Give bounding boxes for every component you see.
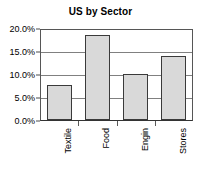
y-axis-tick-label: 20.0% <box>9 25 35 34</box>
bar-food[interactable] <box>85 35 110 120</box>
y-axis-tick-label: 0.0% <box>14 117 35 126</box>
bar-engin[interactable] <box>123 74 148 120</box>
x-axis-tick-label: Engin <box>140 128 149 151</box>
x-axis: TextileFoodEnginStores <box>40 126 193 171</box>
x-label-slot: Food <box>78 126 116 171</box>
bar-slot <box>41 30 79 120</box>
plot-area <box>40 29 193 121</box>
bar-stores[interactable] <box>161 56 186 120</box>
y-axis: 0.0%5.0%10.0%15.0%20.0% <box>0 29 40 121</box>
bar-slot <box>117 30 155 120</box>
y-axis-tick-label: 15.0% <box>9 48 35 57</box>
y-axis-tick-label: 5.0% <box>14 94 35 103</box>
x-axis-tick-label: Food <box>102 128 111 149</box>
bar-textile[interactable] <box>47 85 72 120</box>
x-label-slot: Textile <box>40 126 78 171</box>
x-label-slot: Engin <box>117 126 155 171</box>
x-axis-tick-label: Stores <box>178 128 187 154</box>
bar-chart: US by Sector 0.0%5.0%10.0%15.0%20.0% Tex… <box>0 0 201 171</box>
bar-slot <box>79 30 117 120</box>
y-axis-tick-label: 10.0% <box>9 71 35 80</box>
bars-group <box>41 30 192 120</box>
x-label-slot: Stores <box>155 126 193 171</box>
bar-slot <box>154 30 192 120</box>
chart-title: US by Sector <box>0 6 201 17</box>
x-axis-tick-label: Textile <box>64 128 73 154</box>
